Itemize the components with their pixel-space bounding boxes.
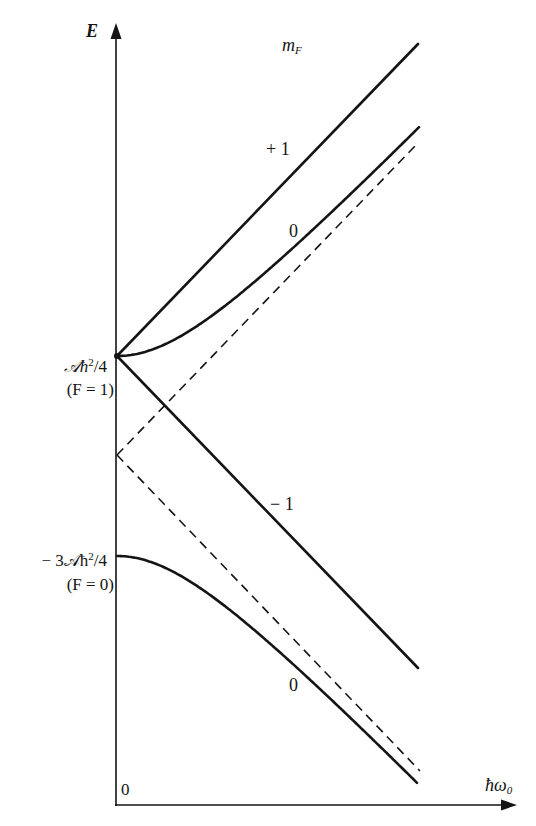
- f1-state-label: (F = 1): [67, 381, 114, 398]
- f0-energy-a: − 3𝒜ħ: [41, 551, 88, 570]
- x-axis-main: ħω: [485, 775, 507, 795]
- y-axis-arrow-icon: [111, 23, 122, 39]
- mf-header: mF: [282, 36, 302, 56]
- curve-label-zero-upper: 0: [289, 222, 298, 240]
- f1-energy-label: 𝒜ħ2/4: [64, 357, 107, 375]
- curve-label-plus1: + 1: [266, 140, 290, 158]
- y-axis-label: E: [86, 22, 98, 40]
- f0-energy-b: /4: [94, 551, 107, 570]
- f1-energy-a: 𝒜ħ: [64, 357, 89, 376]
- curve-mf-minus1: [117, 356, 418, 668]
- f0-state-label: (F = 0): [67, 576, 114, 593]
- asymptotes: [117, 145, 420, 771]
- axes: [111, 23, 518, 811]
- curve-mf-0-f0: [117, 556, 417, 783]
- origin-label: 0: [121, 781, 130, 798]
- level-crossing-point: [114, 353, 120, 359]
- f0-energy-label: − 3𝒜ħ2/4: [41, 551, 107, 569]
- f1-energy-b: /4: [94, 357, 107, 376]
- mf-sub: F: [295, 44, 302, 56]
- x-axis-sub: 0: [507, 784, 513, 796]
- asymptote-lower: [117, 455, 420, 771]
- energy-level-diagram: [0, 0, 536, 826]
- curve-mf-0-f1: [117, 127, 419, 356]
- x-axis-arrow-icon: [501, 800, 517, 811]
- x-axis-label: ħω0: [485, 776, 512, 796]
- curve-label-minus1: − 1: [270, 495, 294, 513]
- curve-mf-plus1: [117, 44, 418, 356]
- mf-main: m: [282, 35, 295, 55]
- curve-label-zero-lower: 0: [289, 676, 298, 694]
- asymptote-upper: [117, 145, 416, 455]
